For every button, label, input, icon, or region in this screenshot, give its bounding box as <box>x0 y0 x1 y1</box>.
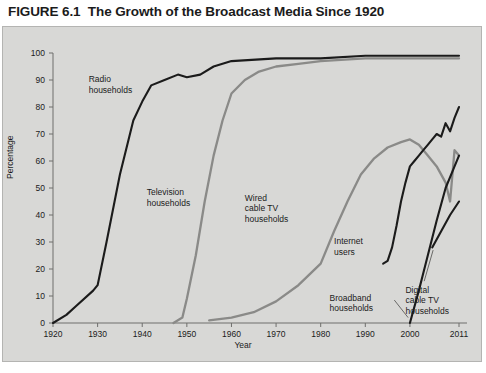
y-tick-label: 0 <box>21 318 45 328</box>
y-tick-label: 90 <box>21 75 45 85</box>
y-tick-label: 40 <box>21 210 45 220</box>
page-title: FIGURE 6.1 The Growth of the Broadcast M… <box>8 4 384 19</box>
x-tick-label: 2011 <box>439 329 479 339</box>
y-tick-label: 70 <box>21 129 45 139</box>
y-tick-label: 60 <box>21 156 45 166</box>
annotation-broadband: Broadband households <box>330 293 373 314</box>
annotation-television: Television households <box>147 187 190 208</box>
x-tick-label: 1990 <box>345 329 385 339</box>
figure-title: The Growth of the Broadcast Media Since … <box>88 4 384 19</box>
y-tick-label: 10 <box>21 291 45 301</box>
x-tick-label: 2000 <box>390 329 430 339</box>
series-line-television-households <box>173 58 459 323</box>
x-tick-label: 1970 <box>256 329 296 339</box>
x-tick-label: 1950 <box>167 329 207 339</box>
y-tick-label: 100 <box>21 48 45 58</box>
figure-container: FIGURE 6.1 The Growth of the Broadcast M… <box>0 0 486 373</box>
annotation-radio: Radio households <box>89 74 132 95</box>
annotation-digital-cable: Digital cable TV households <box>405 285 448 317</box>
figure-title-bar: FIGURE 6.1 The Growth of the Broadcast M… <box>0 0 486 26</box>
x-tick-label: 1960 <box>211 329 251 339</box>
x-tick-label: 1930 <box>78 329 118 339</box>
x-tick-label: 1980 <box>301 329 341 339</box>
x-tick-label: 1920 <box>33 329 73 339</box>
annotation-wired-cable: Wired cable TV households <box>245 193 288 225</box>
series-line-radio-households <box>53 56 459 323</box>
figure-number: FIGURE 6.1 <box>8 4 81 19</box>
y-tick-label: 30 <box>21 237 45 247</box>
annotation-internet: Internet users <box>334 236 363 257</box>
x-tick-label: 1940 <box>122 329 162 339</box>
y-tick-label: 20 <box>21 264 45 274</box>
y-tick-label: 80 <box>21 102 45 112</box>
y-tick-label: 50 <box>21 183 45 193</box>
chart-panel: Percentage Year 100908070605040302010019… <box>2 26 482 362</box>
